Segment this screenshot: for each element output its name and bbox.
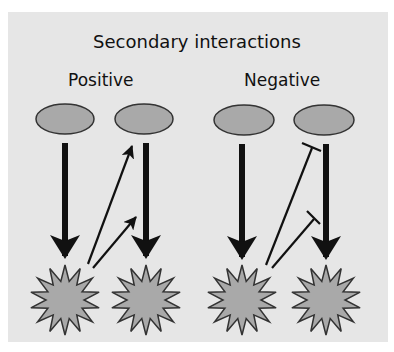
regulator-node: [115, 104, 173, 134]
target-starburst: [112, 265, 180, 335]
regulator-node: [214, 105, 274, 135]
target-starburst: [208, 265, 276, 335]
target-nodes: [31, 265, 360, 335]
inhibition-bar: [307, 211, 320, 224]
secondary-activation-arrows: [88, 146, 136, 268]
regulator-nodes: [36, 104, 354, 135]
interaction-diagram: [0, 0, 394, 352]
primary-arrows: [65, 143, 326, 257]
regulator-node: [294, 105, 354, 135]
activation-arrow: [93, 217, 136, 268]
regulator-node: [36, 104, 94, 134]
secondary-inhibition-lines: [266, 143, 321, 268]
target-starburst: [292, 265, 360, 335]
target-starburst: [31, 265, 99, 335]
inhibition-line: [272, 219, 314, 268]
